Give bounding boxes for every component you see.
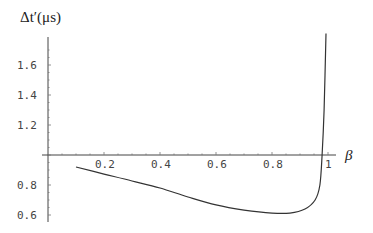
x-tick-label: 1 [325, 158, 332, 171]
tick-marks [48, 50, 328, 215]
y-tick-label: 0.6 [17, 209, 37, 222]
y-tick-label: 1.4 [17, 89, 37, 102]
tick-labels: 0.20.40.60.810.60.81.21.41.6 [17, 59, 332, 222]
y-tick-label: 1.2 [17, 119, 37, 132]
x-tick-label: 0.6 [207, 158, 227, 171]
x-tick-label: 0.2 [95, 158, 115, 171]
x-axis-title: β [344, 147, 353, 163]
chart-canvas: 0.20.40.60.810.60.81.21.41.6 Δt′(μs) β [0, 0, 373, 233]
x-tick-label: 0.8 [263, 158, 283, 171]
y-tick-label: 0.8 [17, 179, 37, 192]
axes [42, 37, 336, 222]
data-curve [76, 34, 326, 214]
x-tick-label: 0.4 [151, 158, 171, 171]
y-axis-title: Δt′(μs) [20, 9, 61, 26]
y-tick-label: 1.6 [17, 59, 37, 72]
